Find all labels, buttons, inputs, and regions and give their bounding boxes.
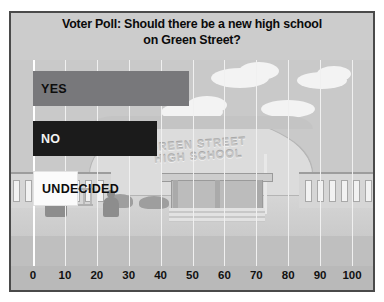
poster-header: Voter Poll: Should there be a new high s… <box>11 13 373 60</box>
gridline <box>256 60 257 266</box>
bar-no: NO <box>33 121 157 156</box>
x-tick-label: 70 <box>250 269 263 281</box>
bar-label-yes: YES <box>41 82 67 96</box>
person-figure <box>103 197 119 217</box>
x-tick-label: 90 <box>314 269 327 281</box>
bush <box>139 196 169 209</box>
x-tick-label: 20 <box>90 269 103 281</box>
bar-label-no: NO <box>41 132 60 146</box>
cloud-icon <box>317 66 351 82</box>
x-axis: 0102030405060708090100 <box>11 266 373 290</box>
bar-label-undecided: UNDECIDED <box>42 182 119 196</box>
entrance-steps <box>169 208 265 222</box>
flagpole <box>264 154 267 214</box>
footer-band <box>11 290 373 292</box>
poll-poster: GREEN STREET HIGH SCHOOL <box>9 11 375 292</box>
x-tick-label: 0 <box>30 269 36 281</box>
x-tick-label: 40 <box>154 269 167 281</box>
gridline <box>193 60 194 266</box>
gridline <box>224 60 225 266</box>
gridline <box>288 60 289 266</box>
x-tick-label: 50 <box>186 269 199 281</box>
x-tick-label: 80 <box>282 269 295 281</box>
page-title: Voter Poll: Should there be a new high s… <box>11 17 373 48</box>
bar-yes: YES <box>33 71 189 106</box>
x-tick-label: 60 <box>218 269 231 281</box>
building-wing-right <box>299 172 373 208</box>
chart-plot-area: GREEN STREET HIGH SCHOOL <box>11 60 373 266</box>
gridline <box>352 60 353 266</box>
gridline <box>320 60 321 266</box>
bar-undecided: UNDECIDED <box>33 171 78 206</box>
x-tick-label: 30 <box>122 269 135 281</box>
cloud-icon <box>239 62 279 80</box>
x-tick-label: 10 <box>58 269 71 281</box>
x-tick-label: 100 <box>342 269 361 281</box>
